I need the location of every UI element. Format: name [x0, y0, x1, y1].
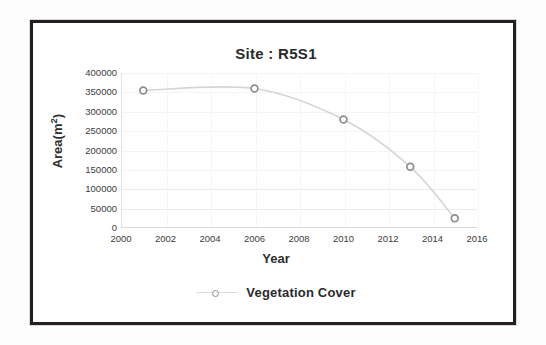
gridline-vertical: [478, 73, 479, 227]
x-tick-label: 2012: [366, 233, 410, 244]
data-point-marker: [340, 116, 347, 123]
x-tick-label: 2004: [188, 233, 232, 244]
x-tick-label: 2002: [144, 233, 188, 244]
data-point-marker: [251, 85, 258, 92]
legend-circle-icon: [212, 290, 219, 297]
y-tick-label: 150000: [55, 165, 117, 175]
data-point-marker: [140, 87, 147, 94]
data-point-marker: [407, 163, 414, 170]
legend-label-vegetation-cover: Vegetation Cover: [246, 285, 355, 300]
x-tick-label: 2008: [277, 233, 321, 244]
y-tick-label: 400000: [55, 68, 117, 78]
y-tick-label: 350000: [55, 87, 117, 97]
x-tick-label: 2000: [99, 233, 143, 244]
page-root: Site : R5S1 Area(m2) 0500001000001500002…: [0, 0, 546, 345]
legend-marker-icon: [196, 287, 238, 299]
plot-wrapper: [121, 73, 477, 228]
x-axis-tick-labels: 200020022004200620082010201220142016: [121, 233, 477, 249]
y-tick-label: 50000: [55, 204, 117, 214]
series-line-vegetation-cover: [143, 87, 455, 219]
x-tick-label: 2014: [411, 233, 455, 244]
chart-title: Site : R5S1: [33, 45, 519, 62]
y-tick-label: 250000: [55, 126, 117, 136]
x-axis-title: Year: [33, 251, 519, 266]
y-axis-tick-labels: 0500001000001500002000002500003000003500…: [53, 73, 117, 228]
y-tick-label: 300000: [55, 107, 117, 117]
series-plot: [121, 73, 477, 228]
y-tick-label: 200000: [55, 146, 117, 156]
y-tick-label: 100000: [55, 184, 117, 194]
chart-legend: Vegetation Cover: [33, 285, 519, 300]
y-tick-label: 0: [55, 223, 117, 233]
x-tick-label: 2010: [322, 233, 366, 244]
x-tick-label: 2006: [233, 233, 277, 244]
x-tick-label: 2016: [455, 233, 499, 244]
chart-frame: Site : R5S1 Area(m2) 0500001000001500002…: [30, 20, 516, 325]
data-point-marker: [451, 215, 458, 222]
